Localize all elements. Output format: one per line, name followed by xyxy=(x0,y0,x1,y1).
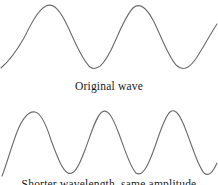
modified-wave-curve xyxy=(2,111,217,176)
wave-comparison-figure: Original wave Shorter wavelength, same a… xyxy=(0,0,218,185)
original-wave-plot xyxy=(0,0,218,78)
original-wave-curve xyxy=(1,5,217,68)
original-wave-caption: Original wave xyxy=(0,80,218,93)
original-wave-panel xyxy=(0,0,218,78)
modified-wave-caption: Shorter wavelength, same amplitude xyxy=(0,178,218,185)
modified-wave-plot xyxy=(0,102,218,178)
modified-wave-panel xyxy=(0,102,218,178)
